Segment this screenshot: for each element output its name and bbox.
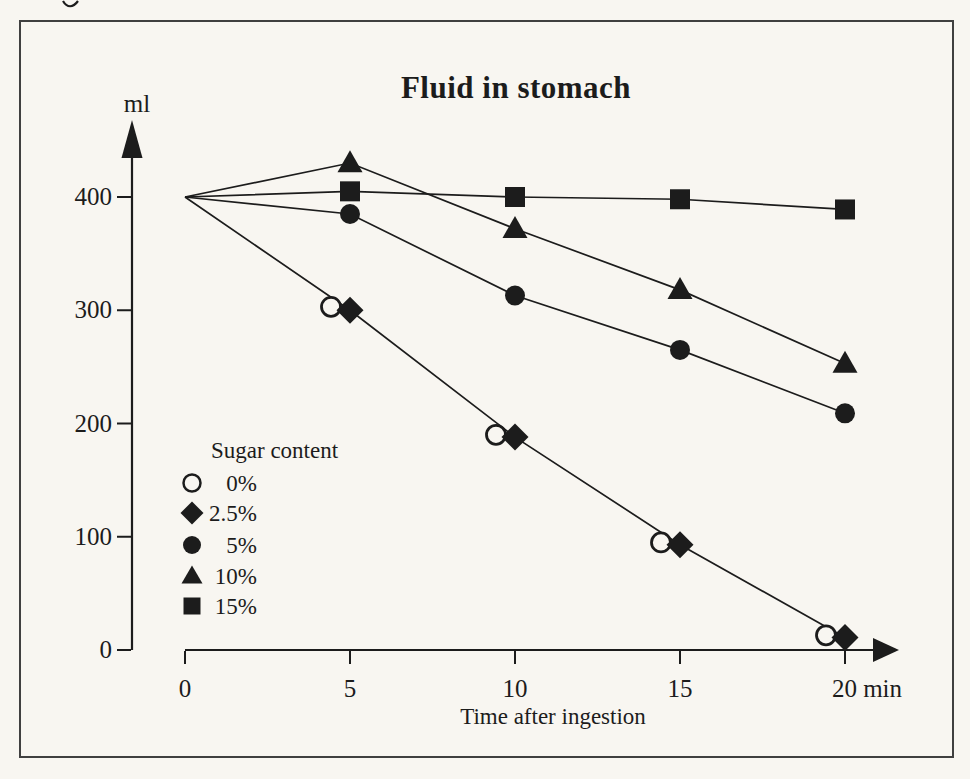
legend-marker-15pct-icon [184,598,201,615]
data-point-0pct-t10 [487,425,506,444]
legend-label-0pct: 0% [226,471,257,496]
data-point-10pct-t20 [833,351,858,373]
x-axis-title: Time after ingestion [460,704,646,729]
data-point-10pct-t5 [338,150,363,172]
x-tick-label-10: 10 [503,675,528,702]
y-tick-label-100: 100 [75,523,113,550]
data-point-5pct-t15 [670,340,690,360]
y-tick-label-300: 300 [75,296,113,323]
data-point-2-5pct-t20 [832,624,859,651]
legend-label-15pct: 15% [215,594,257,619]
scanned-figure-page: Fluid in stomach ml 0100200300400 051015… [0,0,970,779]
legend-items: 0%2.5%5%10%15% [181,471,258,619]
figure-border [20,21,953,757]
data-point-15pct-t5 [340,181,360,201]
x-tick-label-20 min: 20 min [832,675,903,702]
y-axis-ticks: 0100200300400 [75,183,132,663]
y-tick-label-400: 400 [75,183,113,210]
y-axis-arrowhead-icon [122,120,143,158]
data-point-0pct-t15 [652,533,671,552]
y-axis-unit-label: ml [124,90,150,117]
data-point-2-5pct-t5 [337,297,364,324]
legend-marker-2-5pct-icon [181,502,204,525]
legend-label-10pct: 10% [215,564,257,589]
y-tick-label-200: 200 [75,410,113,437]
chart-title: Fluid in stomach [401,70,631,105]
scan-artifact-mark [63,1,78,6]
data-point-0pct-t5 [322,297,341,316]
legend-label-5pct: 5% [226,533,257,558]
x-tick-label-0: 0 [179,675,192,702]
legend-title: Sugar content [211,438,339,463]
data-point-15pct-t20 [835,199,855,219]
data-point-15pct-t10 [505,187,525,207]
y-tick-label-0: 0 [100,636,113,663]
legend-marker-5pct-icon [183,536,201,554]
fluid-in-stomach-chart: Fluid in stomach ml 0100200300400 051015… [0,0,970,779]
data-point-15pct-t15 [670,189,690,209]
x-axis-arrowhead-icon [873,638,899,662]
x-axis-ticks: 05101520 min [179,651,903,702]
data-point-10pct-t10 [503,216,528,238]
data-point-10pct-t15 [668,277,693,299]
data-point-2-5pct-t10 [502,424,529,451]
legend-label-2-5pct: 2.5% [209,501,257,526]
series-line-2-5pct [185,197,845,638]
legend-marker-0pct-icon [184,475,201,492]
data-point-0pct-t20 [817,626,836,645]
data-point-5pct-t20 [835,403,855,423]
x-tick-label-15: 15 [668,675,693,702]
data-point-5pct-t10 [505,286,525,306]
data-point-5pct-t5 [340,204,360,224]
legend-marker-10pct-icon [182,566,203,584]
data-point-2-5pct-t15 [667,531,694,558]
series-markers [322,150,859,651]
x-tick-label-5: 5 [344,675,357,702]
